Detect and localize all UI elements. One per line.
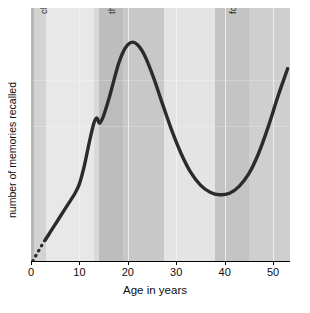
memory-curve — [31, 8, 290, 261]
x-tick-label-40: 40 — [219, 266, 231, 278]
chart-root: childhood amnesia (0–2)the reminiscence … — [0, 0, 310, 313]
x-tick-50 — [273, 261, 274, 265]
annotation-childhood-amnesia-0-2: childhood amnesia (0–2) — [39, 8, 49, 14]
x-tick-40 — [225, 261, 226, 265]
annotation-forgetting: forgetting — [228, 8, 238, 14]
x-tick-30 — [176, 261, 177, 265]
x-tick-label-10: 10 — [73, 266, 85, 278]
x-tick-label-50: 50 — [267, 266, 279, 278]
curve-solid-path — [46, 42, 288, 239]
y-axis-title: number of memories recalled — [6, 82, 18, 218]
annotation-the-reminiscence-bump: the reminiscence bump — [107, 8, 117, 14]
x-tick-0 — [31, 261, 32, 265]
curve-dotted-path — [33, 240, 46, 262]
x-tick-10 — [79, 261, 80, 265]
x-tick-20 — [128, 261, 129, 265]
plot-area: childhood amnesia (0–2)the reminiscence … — [31, 8, 290, 261]
x-tick-label-20: 20 — [122, 266, 134, 278]
x-tick-label-30: 30 — [170, 266, 182, 278]
x-axis-title: Age in years — [0, 284, 310, 296]
x-tick-label-0: 0 — [28, 266, 34, 278]
x-axis-line — [31, 261, 290, 262]
